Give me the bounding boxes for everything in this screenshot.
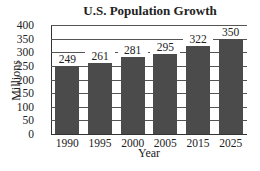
chart-title: U.S. Population Growth [50,3,250,19]
y-tick-label: 300 [4,47,34,58]
y-tick-label: 150 [4,88,34,99]
bar-value-label: 295 [150,42,180,53]
x-axis-label: Year [51,146,247,161]
plot-area: 0501001502002503003504002491990261199528… [51,25,247,135]
x-axis [51,134,247,135]
bar-2005 [153,54,177,134]
gridline [51,120,247,121]
bar-value-label: 261 [85,51,115,62]
gridline [51,93,247,94]
gridline [51,107,247,108]
bar-1990 [55,66,79,134]
gridline [51,39,247,40]
bar-value-label: 249 [52,54,82,65]
bar-1995 [88,63,112,134]
y-tick-label: 400 [4,20,34,31]
y-tick-label: 0 [4,129,34,140]
y-tick-label: 250 [4,61,34,72]
bar-value-label: 350 [216,27,246,38]
bar-2025 [219,39,243,134]
gridline [51,52,247,53]
y-tick-label: 350 [4,34,34,45]
gridline [51,66,247,67]
bar-2000 [121,57,145,134]
y-tick-label: 100 [4,102,34,113]
bar-2015 [186,46,210,134]
bar-value-label: 281 [118,45,148,56]
y-tick-label: 50 [4,115,34,126]
y-tick-label: 200 [4,75,34,86]
bar-value-label: 322 [183,34,213,45]
gridline [51,80,247,81]
